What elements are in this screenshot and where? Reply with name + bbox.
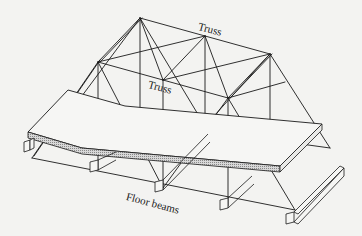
truss-bridge-diagram: Truss Truss Floor beams bbox=[0, 0, 362, 236]
floor-beam-4 bbox=[220, 176, 254, 210]
deck-slab bbox=[28, 90, 322, 172]
diagram-canvas bbox=[0, 0, 362, 236]
floor-beam-5 bbox=[286, 166, 344, 224]
floor-beam-1 bbox=[24, 138, 34, 152]
top-lateral-bracing bbox=[98, 18, 285, 98]
